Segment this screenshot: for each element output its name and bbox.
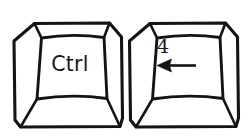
keycaps-drawing: Ctrl 4 bbox=[0, 0, 251, 137]
ctrl-key[interactable]: Ctrl bbox=[14, 23, 123, 127]
ctrl-key-legend: Ctrl bbox=[51, 52, 88, 76]
numpad-4-key-legend: 4 bbox=[157, 35, 169, 57]
numpad-4-key[interactable]: 4 bbox=[130, 23, 239, 127]
keyboard-shortcut-illustration: Ctrl 4 bbox=[0, 0, 251, 137]
